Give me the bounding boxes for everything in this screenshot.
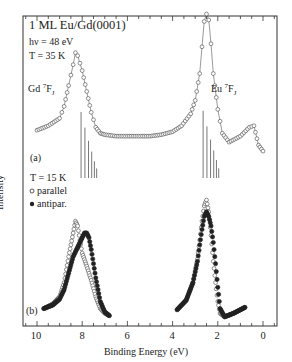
x-tick-2: 2 <box>207 330 227 341</box>
legend-filled-circle-icon <box>30 202 34 206</box>
photon-energy: hν = 48 eV <box>29 36 73 47</box>
multiplet-sticks <box>81 111 219 178</box>
x-axis-label: Binding Energy (eV) <box>0 346 292 357</box>
chart-title: 1 ML Eu/Gd(0001) <box>29 18 126 33</box>
x-tick-8: 8 <box>72 330 92 341</box>
panel-a-label: (a) <box>30 152 41 163</box>
x-tick-10: 10 <box>26 330 46 341</box>
gd-annotation: Gd 7FJ <box>28 82 55 97</box>
legend-antipar: antipar. <box>37 198 67 209</box>
axis-ticks <box>26 16 275 326</box>
x-tick-4: 4 <box>162 330 182 341</box>
legend-open-circle-icon <box>30 189 34 193</box>
legend-parallel: parallel <box>37 185 67 196</box>
legend-markers <box>30 189 34 206</box>
y-axis-label: Intensity <box>0 175 5 210</box>
x-tick-6: 6 <box>117 330 137 341</box>
eu-annotation: Eu 7FJ <box>211 82 236 97</box>
temperature-b: T = 15 K <box>30 172 66 183</box>
panel-b-label: (b) <box>26 305 38 316</box>
plot-frame <box>23 16 277 326</box>
temperature-a: T = 35 K <box>29 50 65 61</box>
x-tick-0: 0 <box>253 330 273 341</box>
